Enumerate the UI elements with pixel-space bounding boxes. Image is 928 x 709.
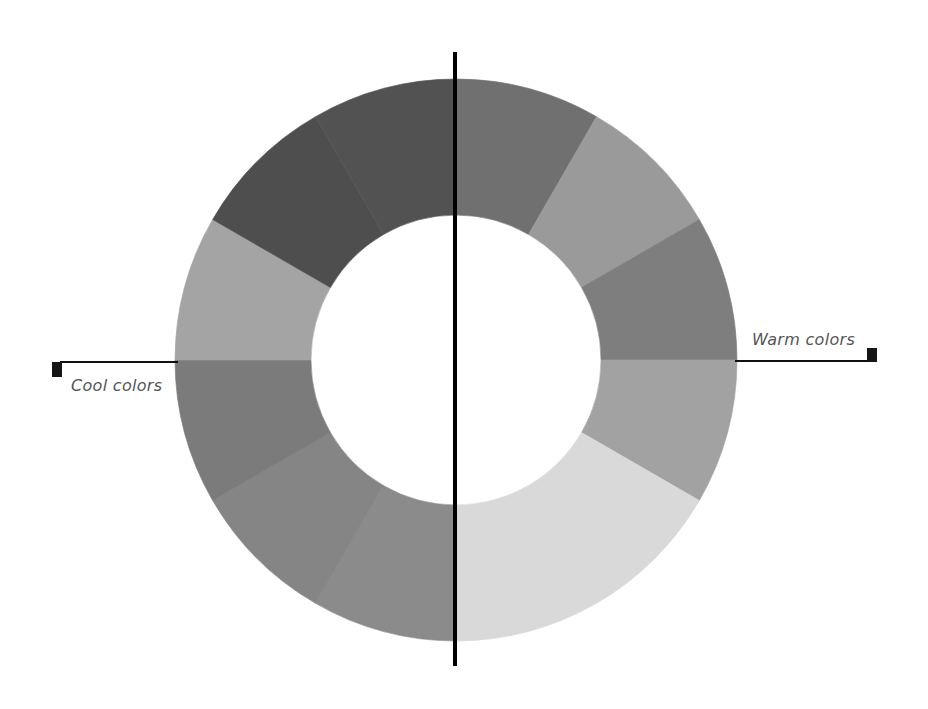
warm-colors-marker [867, 348, 877, 362]
color-wheel-diagram [0, 0, 928, 709]
warm-colors-label: Warm colors [752, 330, 855, 349]
cool-colors-label: Cool colors [71, 376, 162, 395]
cool-colors-marker [52, 362, 62, 377]
